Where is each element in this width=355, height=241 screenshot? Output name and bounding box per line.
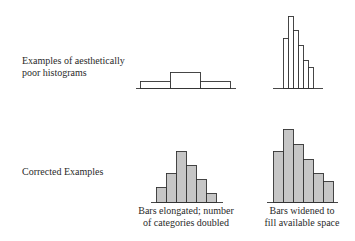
histogram-bar [299,46,304,89]
histogram-bar [284,130,294,203]
histogram-bar [294,31,299,89]
histogram-bar [201,82,231,89]
histogram-bar [167,174,177,203]
histogram-bar [171,73,201,89]
histogram-bar [207,194,217,203]
left-caption-line2: of categories doubled [136,217,236,229]
right-caption-line1: Bars widened to [252,205,352,217]
histogram-bar [141,82,171,89]
histogram-bar [304,160,314,203]
right-caption: Bars widened to fill available space [252,205,352,229]
histogram-bar [294,145,304,203]
right-caption-line2: fill available space [252,217,352,229]
histogram-bar [314,174,324,203]
histogram-bar [187,166,197,203]
histogram-bar [309,68,314,89]
histogram-bar [284,39,289,89]
histogram-bar [304,61,309,89]
histogram-bar [274,152,284,203]
left-caption: Bars elongated; number of categories dou… [136,205,236,229]
histogram-bar [324,182,334,203]
poor-wide-histogram [136,73,236,89]
histogram-bar [289,17,294,89]
corrected-elongated-histogram [151,152,223,203]
histogram-bar [157,188,167,203]
left-caption-line1: Bars elongated; number [136,205,236,217]
corrected-widened-histogram [267,130,338,203]
poor-narrow-histogram [273,17,323,89]
histogram-bar [197,180,207,203]
histogram-bar [177,152,187,203]
